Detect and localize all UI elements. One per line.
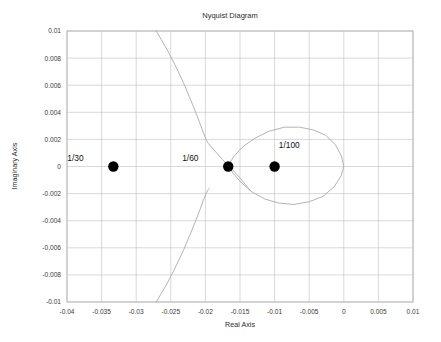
data-marker-label-2: 1/100 xyxy=(279,140,300,150)
data-marker-label-0: 1/30 xyxy=(67,153,84,163)
y-tick-label-3: 0.004 xyxy=(44,109,61,116)
data-marker-dot-0 xyxy=(108,161,118,171)
figure-background xyxy=(0,0,441,342)
y-tick-label-6: -0.002 xyxy=(42,190,61,197)
y-tick-label-7: -0.004 xyxy=(42,217,61,224)
nyquist-figure: Nyquist Diagram -0.04-0.035-0.03-0.025-0… xyxy=(0,0,441,342)
y-tick-label-0: 0.01 xyxy=(48,27,61,34)
x-tick-label-0: -0.04 xyxy=(59,308,74,315)
nyquist-plot-svg: Nyquist Diagram -0.04-0.035-0.03-0.025-0… xyxy=(0,0,441,342)
x-tick-label-5: -0.015 xyxy=(231,308,250,315)
x-tick-label-3: -0.025 xyxy=(161,308,180,315)
data-marker-dot-1 xyxy=(223,161,233,171)
x-tick-label-9: 0.005 xyxy=(370,308,387,315)
y-tick-label-5: 0 xyxy=(57,163,61,170)
x-tick-label-6: -0.01 xyxy=(267,308,282,315)
y-tick-label-9: -0.008 xyxy=(42,271,61,278)
page-title: Nyquist Diagram xyxy=(202,11,257,20)
x-axis-label: Real Axis xyxy=(225,320,255,329)
data-marker-label-1: 1/60 xyxy=(182,153,199,163)
data-marker-dot-2 xyxy=(269,161,279,171)
y-tick-label-1: 0.008 xyxy=(44,55,61,62)
x-tick-label-8: 0 xyxy=(342,308,346,315)
x-tick-label-4: -0.02 xyxy=(198,308,213,315)
x-tick-label-1: -0.035 xyxy=(92,308,111,315)
y-tick-label-4: 0.002 xyxy=(44,136,61,143)
y-tick-label-8: -0.006 xyxy=(42,244,61,251)
y-tick-label-10: -0.01 xyxy=(46,298,61,305)
y-axis-label: Imaginary Axis xyxy=(10,142,19,189)
x-tick-label-7: -0.005 xyxy=(300,308,319,315)
x-tick-label-2: -0.03 xyxy=(129,308,144,315)
x-tick-label-10: 0.01 xyxy=(407,308,420,315)
y-tick-label-2: 0.006 xyxy=(44,82,61,89)
